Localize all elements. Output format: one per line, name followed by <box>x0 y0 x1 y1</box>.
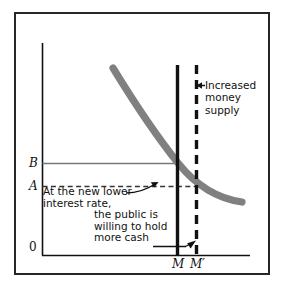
x-axis-label-m-prime: M′ <box>190 258 205 270</box>
annotation-lower-rate-indented: the public is willing to hold more cash <box>94 209 167 244</box>
y-axis-label-B: B <box>29 157 38 169</box>
annotation-increased-money-supply: Increased money supply <box>205 79 256 116</box>
annotation-lower-rate-left: At the new lower interest rate, <box>43 186 132 209</box>
x-axis-label-M: M <box>172 258 184 270</box>
diagram-canvas: B A 0 M M′ Increased money supply At the… <box>0 0 283 289</box>
increased-supply-line-3: supply <box>205 104 256 116</box>
lower-rate-line-1: At the new lower <box>43 186 132 198</box>
y-axis-label-A: A <box>29 180 38 192</box>
lower-rate-line-5: more cash <box>94 232 167 244</box>
origin-label: 0 <box>29 241 37 253</box>
lower-rate-line-3: the public is <box>94 209 167 221</box>
diagram-graphics <box>0 0 283 289</box>
increased-supply-line-1: Increased <box>205 79 256 91</box>
increased-supply-line-2: money <box>205 91 256 103</box>
